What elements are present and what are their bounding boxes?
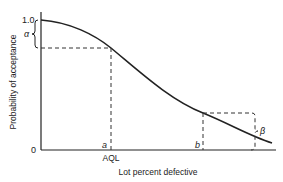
beta-bracket [251, 113, 258, 150]
y-origin-label: 0 [31, 145, 36, 155]
y-axis-title: Probability of acceptance [8, 34, 18, 129]
alpha-label: α [24, 29, 30, 39]
a-mark-label: a [102, 140, 107, 150]
aql-label: AQL [102, 153, 119, 163]
b-mark-label: b [195, 140, 200, 150]
oc-curve [41, 20, 272, 143]
x-axis-title: Lot percent defective [119, 167, 198, 177]
oc-curve-chart: 1.0 0 α β a b AQL Lot percent defective … [0, 0, 283, 182]
y-tick-top: 1.0 [22, 15, 35, 25]
beta-label: β [259, 126, 265, 136]
